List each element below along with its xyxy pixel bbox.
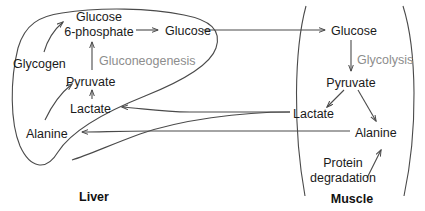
muscle-label-alanine: Alanine xyxy=(355,126,397,140)
muscle-label-protein-degradation-line2: degradation xyxy=(310,171,376,185)
arrow-alanine-muscle-to-liver xyxy=(82,131,350,132)
cori-cycle-diagram: Glucose 6-phosphate Glucose Glycogen Glu… xyxy=(0,0,425,211)
arrow-alanine-to-pyruvate-liver xyxy=(45,84,72,120)
arrow-lactate-muscle-to-liver xyxy=(122,107,290,112)
muscle-right-outline xyxy=(403,6,414,196)
muscle-label-glucose: Glucose xyxy=(331,24,377,38)
liver-label-lactate: Lactate xyxy=(70,102,111,116)
muscle-label-lactate: Lactate xyxy=(293,107,334,121)
muscle-compartment-title: Muscle xyxy=(331,192,373,206)
liver-label-glucose-6-phosphate-line2: 6-phosphate xyxy=(64,25,134,39)
liver-label-glucose: Glucose xyxy=(165,24,211,38)
muscle-label-pyruvate: Pyruvate xyxy=(326,76,375,90)
liver-label-pyruvate: Pyruvate xyxy=(66,75,115,89)
muscle-label-protein-degradation-line1: Protein xyxy=(323,156,363,170)
diagram-canvas: Glucose 6-phosphate Glucose Glycogen Glu… xyxy=(0,0,425,211)
liver-label-glucose-6-phosphate-line1: Glucose xyxy=(76,10,122,24)
liver-compartment-title: Liver xyxy=(79,190,109,204)
liver-label-glycogen: Glycogen xyxy=(13,57,66,71)
liver-label-gluconeogenesis: Gluconeogenesis xyxy=(99,54,196,68)
arrow-glycogen-to-g6p xyxy=(44,22,63,52)
arrow-pyruvate-to-alanine-muscle xyxy=(358,90,376,121)
transport-sweep-curve xyxy=(72,112,290,160)
muscle-label-glycolysis: Glycolysis xyxy=(357,53,413,67)
liver-label-alanine: Alanine xyxy=(26,127,68,141)
muscle-left-outline xyxy=(296,6,306,196)
arrow-pyruvate-to-lactate-muscle xyxy=(327,90,344,107)
